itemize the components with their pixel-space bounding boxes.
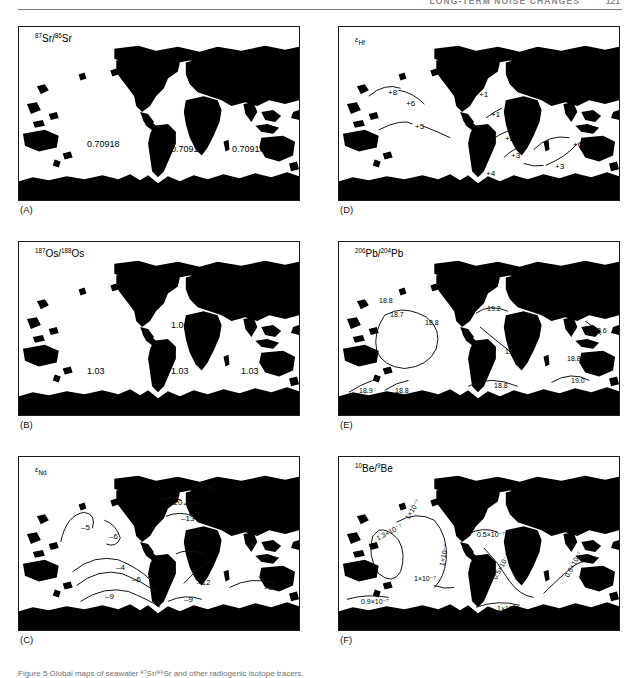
- contour-value-label: +4: [486, 169, 495, 178]
- world-map-graphic: [19, 242, 299, 415]
- panel-A: 0.709180.709180.70918 87Sr/86Sr (A): [18, 26, 300, 201]
- contour-value-label: 0.70918: [232, 144, 265, 154]
- header-rule: [18, 9, 622, 10]
- contour-value-label: 18.6: [593, 327, 607, 334]
- contour-value-label: –13: [181, 514, 194, 523]
- world-map-graphic: [19, 27, 299, 200]
- panel-B-frame: 1.061.031.031.03: [18, 241, 300, 416]
- panel-F: 1.3×10⁻⁷1×10⁻⁷1×10⁻⁷1×10⁻⁷0.5×10⁻⁷0.5×10…: [338, 456, 620, 631]
- figure-caption: Figure 5 Global maps of seawater ⁸⁷Sr/⁸⁶…: [18, 669, 618, 678]
- contour-value-label: –5: [81, 523, 90, 532]
- contour-value-label: +1: [491, 110, 500, 119]
- contour-value-label: 1×10⁻⁷: [497, 605, 519, 613]
- contour-value-label: 18.8: [379, 297, 393, 304]
- page-header: LONG-TERM NOISE CHANGES 121: [0, 0, 638, 14]
- panel-A-frame: 0.709180.709180.70918: [18, 26, 300, 201]
- contour-value-label: 19.2: [487, 305, 501, 312]
- panel-B: 1.061.031.031.03 187Os/188Os (B): [18, 241, 300, 416]
- panel-C-title: εNd: [32, 462, 50, 475]
- contour-value-label: 0.9×10⁻⁷: [361, 598, 389, 606]
- contour-value-label: –13: [191, 552, 204, 561]
- panel-E-frame: 18.818.718.819.219.118.618.818.918.818.8…: [338, 241, 620, 416]
- contour-value-label: +3: [555, 162, 564, 171]
- contour-value-label: 18.9: [359, 387, 373, 394]
- contour-value-label: +6: [406, 99, 415, 108]
- contour-value-label: –8: [194, 503, 203, 512]
- panel-F-frame: 1.3×10⁻⁷1×10⁻⁷1×10⁻⁷1×10⁻⁷0.5×10⁻⁷0.5×10…: [338, 456, 620, 631]
- panel-C: –5–6–10–20–8–13–13–4–6–9–12–9–8 εNd (C): [18, 456, 300, 631]
- contour-value-label: –9: [184, 595, 193, 604]
- panel-F-label: (F): [340, 634, 352, 645]
- contour-value-label: –8: [264, 583, 273, 592]
- panel-B-label: (B): [20, 419, 33, 430]
- contour-value-label: 0.5×10⁻⁷: [477, 531, 505, 539]
- contour-value-label: 19.0: [571, 377, 585, 384]
- contour-value-label: +6: [573, 140, 582, 149]
- contour-value-label: –20: [169, 498, 182, 507]
- contour-value-label: –10: [202, 487, 215, 496]
- panel-B-title: 187Os/188Os: [32, 247, 87, 260]
- panel-D-contours: [339, 27, 619, 200]
- panel-D: +8+6+5+1+1+2+3+4+6+3 εHf (D): [338, 26, 620, 201]
- panel-E: 18.818.718.819.219.118.618.818.918.818.8…: [338, 241, 620, 416]
- panel-E-label: (E): [340, 419, 353, 430]
- contour-value-label: +3: [511, 151, 520, 160]
- contour-value-label: 18.8: [395, 387, 409, 394]
- contour-value-label: 0.70918: [171, 144, 204, 154]
- contour-value-label: 18.7: [390, 311, 404, 318]
- panel-A-label: (A): [20, 204, 33, 215]
- contour-value-label: –6: [132, 575, 141, 584]
- panel-A-map: [19, 27, 299, 200]
- panel-D-label: (D): [340, 204, 353, 215]
- contour-value-label: +8: [388, 88, 397, 97]
- page-number: 121: [606, 0, 620, 6]
- contour-value-label: 0.70918: [87, 139, 120, 149]
- contour-value-label: 1.06: [171, 320, 189, 330]
- contour-value-label: 18.8: [567, 355, 581, 362]
- contour-value-label: –6: [109, 532, 118, 541]
- contour-value-label: 1.03: [171, 366, 189, 376]
- panel-C-frame: –5–6–10–20–8–13–13–4–6–9–12–9–8: [18, 456, 300, 631]
- contour-value-label: 1.03: [241, 366, 259, 376]
- contour-value-label: 1.03: [87, 366, 105, 376]
- contour-value-label: 1×10⁻⁷: [414, 575, 436, 583]
- panel-C-contours: [19, 457, 299, 630]
- panel-B-map: [19, 242, 299, 415]
- contour-value-label: –4: [116, 563, 125, 572]
- contour-value-label: –12: [197, 578, 210, 587]
- panel-D-title: εHf: [352, 32, 368, 45]
- contour-value-label: +2: [505, 134, 514, 143]
- contour-value-label: +5: [415, 122, 424, 131]
- panel-E-title: 206Pb/204Pb: [352, 247, 406, 260]
- running-title: LONG-TERM NOISE CHANGES: [430, 0, 580, 6]
- contour-value-label: 18.8: [494, 382, 508, 389]
- panel-A-title: 87Sr/86Sr: [32, 32, 75, 45]
- panel-D-frame: +8+6+5+1+1+2+3+4+6+3: [338, 26, 620, 201]
- panel-C-label: (C): [20, 634, 33, 645]
- contour-value-label: 18.8: [425, 319, 439, 326]
- contour-value-label: –9: [105, 592, 114, 601]
- panel-F-title: 10Be/9Be: [352, 462, 396, 475]
- contour-value-label: 19.1: [505, 348, 519, 355]
- contour-value-label: +1: [479, 90, 488, 99]
- panel-E-contours: [339, 242, 619, 415]
